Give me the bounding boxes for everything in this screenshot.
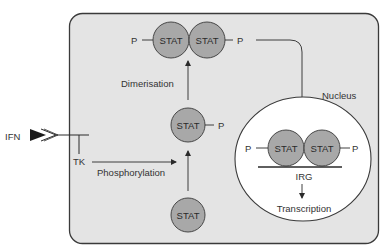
svg-text:STAT: STAT — [275, 143, 298, 154]
dimerisation-label: Dimerisation — [121, 78, 174, 89]
svg-text:STAT: STAT — [177, 210, 200, 221]
svg-text:STAT: STAT — [311, 143, 334, 154]
irg-label: IRG — [296, 171, 313, 182]
ifn-stat-pathway-diagram: IFN TK Phosphorylation STAT STAT P Dimer… — [0, 0, 385, 249]
ifn-label: IFN — [5, 131, 20, 142]
ifn-ligand-icon — [30, 129, 58, 141]
svg-text:P: P — [131, 35, 137, 46]
svg-text:P: P — [237, 35, 243, 46]
svg-text:P: P — [245, 143, 251, 154]
svg-text:STAT: STAT — [177, 120, 200, 131]
svg-text:STAT: STAT — [160, 35, 183, 46]
svg-text:P: P — [218, 120, 224, 131]
svg-text:P: P — [352, 143, 358, 154]
tk-label: TK — [73, 156, 86, 167]
svg-text:STAT: STAT — [196, 35, 219, 46]
phosphorylation-label: Phosphorylation — [97, 167, 165, 178]
transcription-label: Transcription — [277, 203, 332, 214]
nucleus-label: Nucleus — [322, 90, 357, 101]
stat-unphosphorylated: STAT — [171, 198, 205, 232]
